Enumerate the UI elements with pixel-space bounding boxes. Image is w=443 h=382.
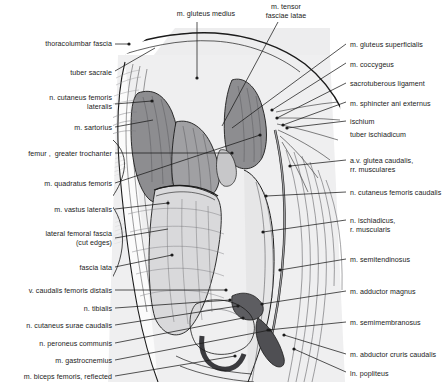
label-m-semitendinosus: m. semitendinosus	[350, 256, 443, 265]
ll-m-abductor-cruris-caudalis-dot	[282, 333, 285, 336]
label-n-tibialis: n. tibialis	[62, 305, 112, 314]
label-m-tensor-fasciae-latae: m. tensor fasciae latae	[253, 3, 319, 21]
label-m-gluteus-medius: m. gluteus medius	[164, 10, 248, 19]
label-av-glutea-caudalis: a.v. glutea caudalis, rr. musculares	[350, 157, 443, 175]
label-n-cutaneus-femoris-caudalis: n. cutaneus femoris caudalis	[350, 189, 443, 198]
label-n-cutaneus-surae-caudalis: n. cutaneus surae caudalis	[8, 322, 112, 331]
ll-ln-popliteus-dot	[292, 347, 295, 350]
ll-m-semimembranosus-dot	[266, 328, 269, 331]
ll-m-vastus-lateralis-dot	[166, 201, 169, 204]
ll-n-cutaneus-femoris-caudalis-dot	[264, 194, 267, 197]
ll-n-cutaneus-surae-caudalis-dot	[236, 304, 239, 307]
label-n-cutaneus-femoris-lateralis: n. cutaneus femoris lateralis	[22, 94, 112, 112]
ll-v-caudalis-femoris-distalis-dot	[224, 288, 227, 291]
label-n-ischiadicus-r-muscularis: n. ischiadicus, r. muscularis	[350, 217, 443, 235]
ll-thoracolumbar-fascia-dot	[127, 42, 130, 45]
label-v-caudalis-femoris-distalis: v. caudalis femoris distalis	[9, 287, 112, 296]
label-ischium: ischium	[350, 118, 443, 127]
label-fascia-lata: fascia lata	[52, 264, 112, 273]
ll-m-adductor-magnus-dot	[260, 302, 263, 305]
label-thoracolumbar-fascia: thoracolumbar fascia	[22, 40, 112, 49]
ll-m-gluteus-medius-dot	[195, 76, 198, 79]
label-ln-popliteus: ln. popliteus	[350, 370, 443, 379]
label-m-abductor-cruris-caudalis: m. abductor cruris caudalis	[350, 351, 443, 360]
ll-m-sphincter-ani-externus-dot	[281, 123, 284, 126]
label-m-sphincter-ani-externus: m. sphincter ani externus	[350, 100, 443, 109]
label-m-biceps-femoris-reflected: m. biceps femoris, reflected	[5, 373, 112, 382]
ll-m-semitendinosus-dot	[278, 268, 281, 271]
label-tuber-sacrale: tuber sacrale	[52, 69, 112, 78]
ll-n-peroneus-communis-dot	[241, 316, 244, 319]
label-m-adductor-magnus: m. adductor magnus	[350, 288, 443, 297]
ll-m-coccygeus-dot	[270, 108, 273, 111]
label-m-gastrocnemius: m. gastrocnemius	[36, 357, 112, 366]
label-n-peroneus-communis: n. peroneus communis	[20, 340, 112, 349]
ll-m-quadratus-femoris-dot	[258, 133, 261, 136]
ll-ischium-dot	[285, 126, 288, 129]
ll-femur-greater-trochanter-dot	[230, 151, 233, 154]
ll-n-tibialis-dot	[228, 298, 231, 301]
label-lateral-femoral-fascia: lateral femoral fascia (cut edges)	[22, 230, 112, 248]
label-m-semimembranosus: m. semimembranosus	[350, 319, 443, 328]
label-m-quadratus-femoris: m. quadratus femoris	[22, 180, 112, 189]
label-m-coccygeus: m. coccygeus	[350, 61, 443, 70]
label-femur-greater-trochanter: femur , greater trochanter	[2, 150, 112, 159]
ll-av-glutea-caudalis-dot	[288, 164, 291, 167]
ll-n-ischiadicus-dot	[261, 230, 264, 233]
ll-sacrotuberous-ligament-dot	[275, 116, 278, 119]
ll-m-biceps-femoris-reflected-dot	[233, 354, 236, 357]
label-m-gluteus-superficialis: m. gluteus superficialis	[350, 41, 443, 50]
label-sacrotuberous-ligament: sacrotuberous ligament	[350, 80, 443, 89]
ll-n-cutaneus-femoris-lateralis-dot	[150, 99, 153, 102]
anatomical-figure: m. gluteus mediusm. tensor fasciae latae…	[0, 0, 443, 382]
label-tuber-ischiadicum: tuber ischiadicum	[350, 131, 443, 140]
label-m-vastus-lateralis: m. vastus lateralis	[32, 206, 112, 215]
ll-fascia-lata-dot	[170, 253, 173, 256]
label-m-sartorius: m. sartorius	[52, 124, 112, 133]
